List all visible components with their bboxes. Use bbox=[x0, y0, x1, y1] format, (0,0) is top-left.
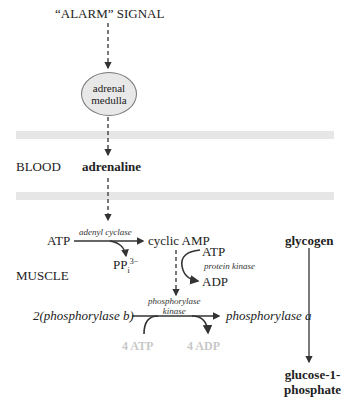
muscle-label: MUSCLE bbox=[16, 268, 69, 284]
pk-adp-label: ADP bbox=[202, 274, 228, 290]
ppi-label: PPi3− bbox=[113, 257, 138, 275]
phosphorylase-kinase-line1: phosphorylase bbox=[148, 296, 201, 306]
four-adp-label: 4 ADP bbox=[187, 339, 220, 354]
atp-label: ATP bbox=[47, 233, 70, 249]
ppi-base: PP bbox=[113, 257, 127, 272]
glucose-line2: phosphate bbox=[284, 382, 341, 397]
adrenal-line2: medulla bbox=[91, 94, 126, 106]
glycogen-label: glycogen bbox=[285, 233, 333, 249]
phosphorylase-b-label: 2(phosphorylase b) bbox=[33, 308, 134, 324]
four-atp-label: 4 ATP bbox=[122, 339, 153, 354]
phosphorylase-kinase-label: phosphorylase kinase bbox=[148, 296, 201, 316]
cyclic-amp-label: cyclic AMP bbox=[148, 233, 210, 249]
adrenal-medulla-node: adrenal medulla bbox=[81, 72, 137, 116]
adrenaline-label: adrenaline bbox=[82, 159, 141, 175]
ppi-sub: i bbox=[127, 266, 129, 275]
protein-kinase-label: protein kinase bbox=[204, 261, 255, 271]
phosphorylase-a-label: phosphorylase a bbox=[226, 308, 312, 324]
pk-atp-label: ATP bbox=[202, 244, 225, 260]
adrenal-line1: adrenal bbox=[93, 82, 125, 94]
glucose-line1: glucose-1- bbox=[284, 367, 341, 382]
glucose-1-phosphate-label: glucose-1- phosphate bbox=[284, 367, 341, 397]
phosphorylase-kinase-line2: kinase bbox=[148, 306, 201, 316]
blood-label: BLOOD bbox=[16, 159, 61, 175]
pathway-arrows bbox=[0, 0, 350, 404]
ppi-sup: 3− bbox=[130, 257, 139, 266]
adenyl-cyclase-label: adenyl cyclase bbox=[79, 227, 132, 237]
alarm-signal-label: “ALARM” SIGNAL bbox=[55, 6, 164, 22]
